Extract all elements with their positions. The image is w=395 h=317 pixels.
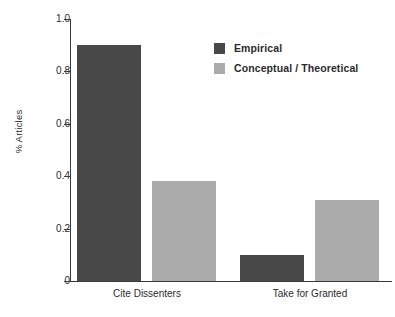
chart-legend: EmpiricalConceptual / Theoretical	[214, 38, 358, 78]
legend-item: Empirical	[214, 38, 358, 58]
x-axis-category-label: Cite Dissenters	[77, 288, 217, 300]
y-axis-title: % Articles	[13, 87, 24, 177]
legend-item-label: Conceptual / Theoretical	[234, 62, 358, 74]
legend-item: Conceptual / Theoretical	[214, 58, 358, 78]
legend-color-swatch	[214, 63, 225, 74]
bar	[152, 181, 216, 281]
x-axis-category-label: Take for Granted	[240, 288, 380, 300]
bar-chart: % Articles 00.20.40.60.81.0 Cite Dissent…	[0, 0, 395, 317]
y-axis-line	[70, 19, 71, 282]
bar	[240, 255, 304, 281]
bar	[315, 200, 379, 281]
legend-item-label: Empirical	[234, 42, 282, 54]
x-axis-line	[70, 281, 392, 282]
bar	[77, 45, 141, 281]
legend-color-swatch	[214, 43, 225, 54]
